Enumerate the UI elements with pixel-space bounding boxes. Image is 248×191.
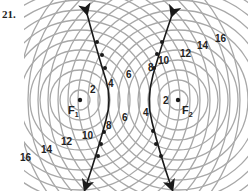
focus-2-point (176, 98, 180, 102)
focus-2-letter: F (182, 104, 189, 116)
concentric-circles (0, 0, 248, 191)
focus-1-letter: F (68, 104, 75, 116)
focus-1-label: F1 (68, 104, 79, 118)
distance-label: 2 (163, 96, 169, 106)
focus-1-subscript: 1 (75, 111, 79, 118)
distance-label: 6 (126, 70, 132, 80)
distance-label: 14 (41, 145, 52, 155)
distance-label: 6 (122, 113, 128, 123)
focus-2-label: F2 (182, 104, 193, 118)
distance-label: 4 (143, 108, 149, 118)
focus-2-subscript: 2 (189, 111, 193, 118)
distance-label: 8 (148, 63, 154, 73)
distance-label: 4 (108, 79, 114, 89)
distance-label: 16 (215, 34, 226, 44)
problem-number: 21. (2, 8, 16, 20)
hyperbola-diagram (0, 0, 248, 191)
focus-1-point (78, 98, 82, 102)
distance-label: 2 (90, 85, 96, 95)
distance-label: 8 (106, 121, 112, 131)
distance-label: 10 (82, 131, 93, 141)
distance-label: 16 (20, 153, 31, 163)
distance-label: 10 (158, 56, 169, 66)
distance-label: 12 (61, 137, 72, 147)
distance-label: 12 (180, 49, 191, 59)
distance-label: 14 (197, 41, 208, 51)
